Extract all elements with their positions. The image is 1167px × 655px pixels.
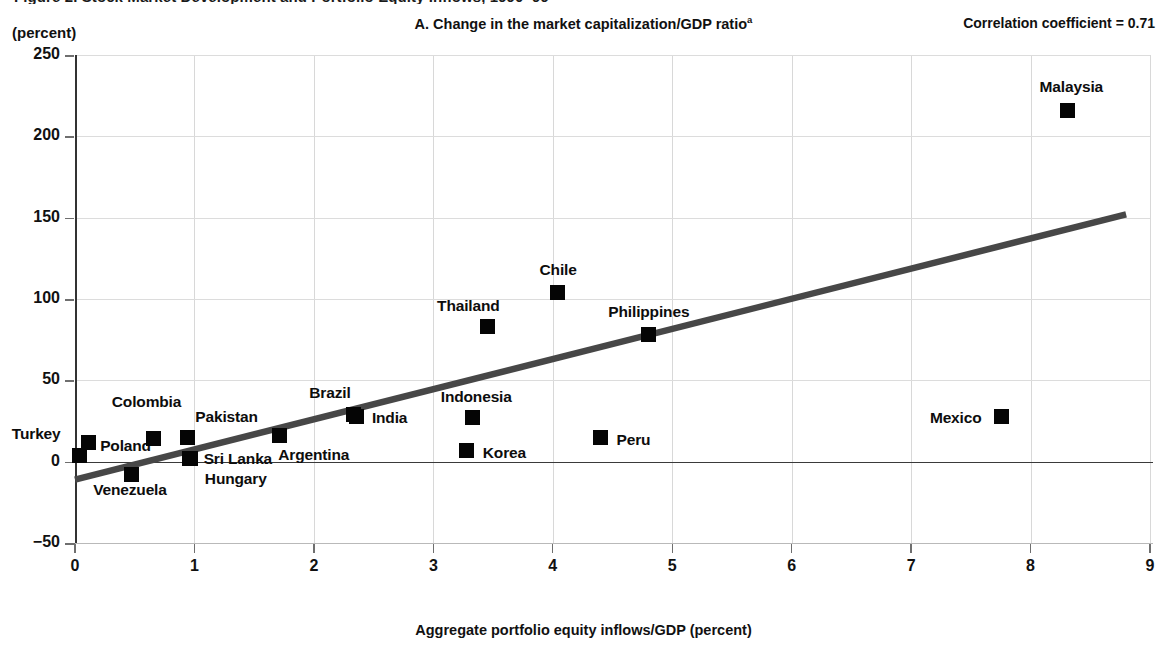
scatter-point-label: Thailand <box>437 297 500 315</box>
scatter-point-label: Hungary <box>205 470 267 488</box>
scatter-point-label: Venezuela <box>93 481 167 499</box>
x-tick-label: 3 <box>413 557 453 575</box>
figure-panel-a: Figure 2. Stock Market Development and P… <box>0 0 1167 655</box>
x-tick-mark <box>1030 543 1031 553</box>
cut-off-figure-caption: Figure 2. Stock Market Development and P… <box>14 0 1154 4</box>
scatter-point-label: India <box>372 409 407 427</box>
gridline-horizontal <box>75 55 1150 56</box>
scatter-point-label: Argentina <box>278 446 349 464</box>
x-tick-label: 8 <box>1011 557 1051 575</box>
scatter-marker <box>81 435 96 450</box>
gridline-horizontal <box>75 299 1150 300</box>
y-tick-label: 250 <box>0 45 60 63</box>
scatter-point-label: Korea <box>483 444 526 462</box>
scatter-marker <box>550 285 565 300</box>
y-tick-label: 150 <box>0 208 60 226</box>
scatter-point-label: Poland <box>100 437 151 455</box>
x-tick-label: 2 <box>294 557 334 575</box>
scatter-point-label: Brazil <box>309 384 350 402</box>
scatter-point-label: Sri Lanka <box>204 450 272 468</box>
x-tick-mark <box>552 543 553 553</box>
x-tick-label: 9 <box>1130 557 1167 575</box>
y-tick-mark <box>65 380 74 382</box>
x-tick-label: 7 <box>891 557 931 575</box>
x-axis-line <box>75 543 1153 544</box>
panel-title-footnote-marker: a <box>747 14 752 25</box>
y-tick-label: −50 <box>0 533 60 551</box>
scatter-point-label: Indonesia <box>441 388 512 406</box>
gridline-horizontal <box>75 218 1150 219</box>
scatter-marker <box>480 319 495 334</box>
x-tick-mark <box>194 543 195 553</box>
scatter-marker <box>465 410 480 425</box>
scatter-marker <box>180 430 195 445</box>
scatter-point-label: Philippines <box>608 303 689 321</box>
x-tick-label: 1 <box>174 557 214 575</box>
y-tick-mark <box>65 218 74 220</box>
x-tick-label: 4 <box>533 557 573 575</box>
scatter-marker <box>994 409 1009 424</box>
scatter-marker <box>459 443 474 458</box>
x-tick-label: 5 <box>652 557 692 575</box>
y-tick-label: 0 <box>0 452 60 470</box>
scatter-point-label: Chile <box>540 261 577 279</box>
y-axis-line <box>75 55 77 544</box>
scatter-marker <box>1060 103 1075 118</box>
scatter-point-label: Turkey <box>12 425 61 443</box>
x-axis-title: Aggregate portfolio equity inflows/GDP (… <box>0 622 1167 638</box>
scatter-marker <box>272 428 287 443</box>
y-tick-mark <box>65 136 74 138</box>
gridline-horizontal <box>75 380 1150 381</box>
x-tick-mark <box>313 543 314 553</box>
scatter-marker <box>593 430 608 445</box>
scatter-marker <box>72 448 87 463</box>
x-tick-mark <box>791 543 792 553</box>
scatter-marker <box>146 431 161 446</box>
correlation-coefficient-annotation: Correlation coefficient = 0.71 <box>963 15 1155 31</box>
scatter-marker <box>641 327 656 342</box>
x-tick-mark <box>1149 543 1150 553</box>
scatter-point-label: Colombia <box>112 393 181 411</box>
y-tick-label: 100 <box>0 289 60 307</box>
x-tick-mark <box>74 543 75 553</box>
x-tick-label: 0 <box>55 557 95 575</box>
x-tick-mark <box>433 543 434 553</box>
scatter-marker <box>349 409 364 424</box>
scatter-point-label: Mexico <box>930 409 982 427</box>
scatter-point-label: Malaysia <box>1040 78 1103 96</box>
gridline-horizontal <box>75 136 1150 137</box>
x-tick-label: 6 <box>772 557 812 575</box>
scatter-marker <box>183 451 198 466</box>
y-tick-mark <box>65 299 74 301</box>
y-tick-mark <box>65 543 74 545</box>
scatter-point-label: Pakistan <box>195 408 258 426</box>
gridline-vertical <box>1150 55 1151 543</box>
y-tick-label: 50 <box>0 370 60 388</box>
scatter-point-label: Peru <box>617 431 651 449</box>
y-tick-label: 200 <box>0 126 60 144</box>
panel-title-text: A. Change in the market capitalization/G… <box>415 16 748 32</box>
x-tick-mark <box>910 543 911 553</box>
x-tick-mark <box>672 543 673 553</box>
y-tick-mark <box>65 55 74 57</box>
